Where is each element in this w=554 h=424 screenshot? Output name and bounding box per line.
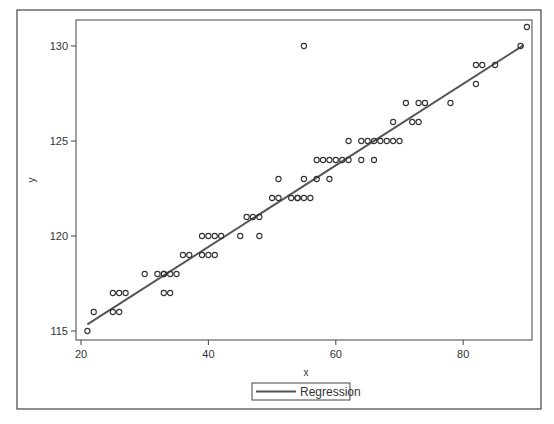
legend-label-regression: Regression	[300, 385, 361, 399]
y-tick-label: 120	[50, 230, 68, 242]
plot-area	[76, 20, 532, 340]
legend: Regression	[252, 383, 361, 400]
y-tick-label: 115	[50, 325, 68, 337]
x-tick-label: 40	[202, 348, 214, 360]
x-axis-label: x	[304, 367, 309, 378]
y-axis-label: y	[26, 178, 37, 183]
y-tick-label: 125	[50, 135, 68, 147]
y-tick-label: 130	[50, 40, 68, 52]
x-tick-label: 80	[457, 348, 469, 360]
regression-scatter-chart: 115120125130 20406080 x y Regression	[0, 0, 554, 424]
x-tick-label: 60	[330, 348, 342, 360]
x-tick-label: 20	[75, 348, 87, 360]
